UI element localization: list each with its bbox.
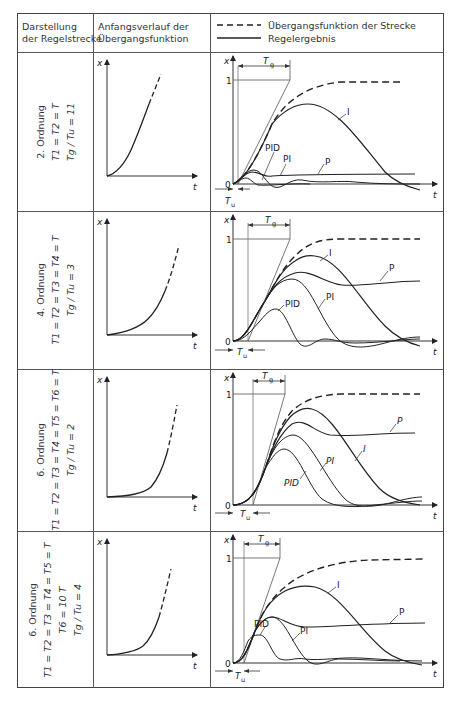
order-label: 6. Ordnung: [33, 370, 48, 531]
legend-solid-label: Regelergebnis: [268, 32, 416, 45]
svg-text:1: 1: [226, 76, 232, 86]
svg-text:x: x: [96, 537, 103, 547]
ratio-label: Tg / Tu = 3: [63, 235, 78, 344]
header-col2-line1: Anfangsverlauf der: [98, 21, 189, 33]
svg-text:u: u: [243, 352, 247, 360]
svg-text:g: g: [265, 539, 269, 547]
curve-label-I: I: [363, 444, 366, 454]
svg-text:1: 1: [226, 235, 232, 245]
svg-text:T: T: [263, 56, 270, 66]
curve-label-PI: PI: [300, 626, 308, 636]
ratio-label: Tg / Tu = 2: [63, 370, 78, 531]
curve-label-I: I: [347, 107, 350, 117]
control-result-3: x 1 0 t T g T u P I PI PID: [210, 369, 444, 531]
svg-text:0: 0: [225, 337, 231, 347]
time-constant-eq2: T6 = 10 T: [55, 542, 70, 677]
time-constant-eq: T1 = T2 = T3 = T4 = T: [48, 235, 63, 344]
curve-label-PID: PID: [285, 299, 300, 309]
svg-text:T: T: [265, 215, 272, 225]
svg-text:u: u: [231, 201, 235, 209]
curve-label-P: P: [325, 157, 331, 167]
svg-text:x: x: [223, 535, 230, 545]
svg-text:x: x: [96, 217, 103, 227]
header-col2: Anfangsverlauf der Übergangsfunktion: [98, 21, 189, 45]
legend-dashed-label: Übergangsfunktion der Strecke: [268, 19, 416, 32]
row-label-1: 2. Ordnung T1 = T2 = T Tg / Tu = 11: [17, 52, 93, 211]
legend-text: Übergangsfunktion der Strecke Regelergeb…: [268, 19, 416, 45]
header-col1: Darstellung der Regelstrecke: [22, 21, 102, 45]
curve-label-PID: PID: [284, 478, 299, 488]
svg-text:t: t: [433, 347, 437, 357]
curve-label-P: P: [399, 607, 405, 617]
curve-label-I: I: [337, 580, 340, 590]
svg-text:u: u: [246, 514, 250, 522]
curve-label-P: P: [397, 416, 403, 426]
svg-text:t: t: [193, 503, 197, 513]
time-constant-eq: T1 = T2 = T3 = T4 = T5 = T: [40, 542, 55, 677]
curve-label-PI: PI: [326, 456, 334, 466]
svg-text:g: g: [270, 61, 274, 69]
header-col1-line1: Darstellung: [22, 21, 102, 33]
control-result-2: x 1 0 t T g T u I P PI PID: [210, 211, 444, 369]
ratio-label: Tg / Tu = 11: [63, 102, 78, 160]
svg-text:0: 0: [225, 659, 231, 669]
curve-label-P: P: [389, 263, 395, 273]
row-label-4: 6. Ordnung T1 = T2 = T3 = T4 = T5 = T T6…: [17, 531, 93, 688]
initial-response-1: x t: [93, 52, 210, 211]
svg-text:T: T: [262, 371, 269, 381]
ratio-label: Tg / Tu = 4: [70, 542, 85, 677]
order-label: 6. Ordnung: [25, 542, 40, 677]
svg-text:x: x: [96, 58, 103, 68]
legend-lines: [215, 18, 265, 48]
svg-text:t: t: [193, 661, 197, 671]
control-result-1: x 1 0 t T g T u I P PI PID: [210, 52, 444, 211]
header-col2-line2: Übergangsfunktion: [98, 33, 189, 45]
svg-text:x: x: [223, 373, 230, 383]
initial-response-3: x t: [93, 369, 210, 531]
svg-text:t: t: [433, 511, 437, 521]
svg-text:g: g: [269, 376, 273, 384]
svg-text:1: 1: [226, 390, 232, 400]
order-label: 2. Ordnung: [33, 102, 48, 160]
curve-label-PID: PID: [254, 619, 269, 629]
curve-label-PID: PID: [265, 143, 280, 153]
svg-text:T: T: [258, 534, 265, 544]
curve-label-PI: PI: [326, 292, 334, 302]
initial-response-2: x t: [93, 211, 210, 369]
svg-text:t: t: [193, 341, 197, 351]
initial-response-4: x t: [93, 531, 210, 688]
svg-text:0: 0: [225, 501, 231, 511]
svg-text:t: t: [433, 190, 437, 200]
time-constant-eq: T1 = T2 = T3 = T4 = T5 = T6 = T: [48, 370, 63, 531]
curve-label-I: I: [329, 248, 332, 258]
time-constant-eq: T1 = T2 = T: [48, 102, 63, 160]
svg-text:g: g: [272, 220, 276, 228]
svg-text:u: u: [241, 676, 245, 684]
row-label-2: 4. Ordnung T1 = T2 = T3 = T4 = T Tg / Tu…: [17, 211, 93, 369]
curve-label-PI: PI: [283, 154, 291, 164]
svg-text:1: 1: [226, 554, 232, 564]
order-label: 4. Ordnung: [33, 235, 48, 344]
svg-text:x: x: [223, 56, 230, 66]
svg-text:t: t: [433, 669, 437, 679]
row-label-3: 6. Ordnung T1 = T2 = T3 = T4 = T5 = T6 =…: [17, 369, 93, 531]
header-col1-line2: der Regelstrecke: [22, 33, 102, 45]
svg-text:t: t: [193, 182, 197, 192]
svg-text:x: x: [96, 375, 103, 385]
control-result-4: x 1 0 t T g T u I P PI PID: [210, 531, 444, 688]
svg-text:x: x: [223, 215, 230, 225]
